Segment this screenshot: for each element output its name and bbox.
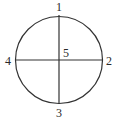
label-center-point: 5 [63,47,69,59]
label-bottom-point: 3 [56,107,62,119]
circle-diagram: 1 2 3 4 5 [0,0,121,126]
label-top-point: 1 [56,1,62,13]
label-left-point: 4 [5,55,11,67]
label-right-point: 2 [106,55,112,67]
